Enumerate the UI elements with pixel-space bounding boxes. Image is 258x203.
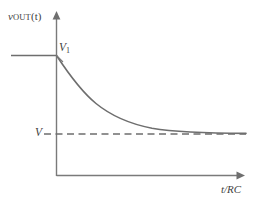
initial-value-subscript: 1 xyxy=(66,46,70,55)
initial-value-symbol: V xyxy=(59,41,66,53)
x-axis-label: t/RC xyxy=(221,184,241,195)
y-axis xyxy=(53,11,61,176)
plot-canvas xyxy=(0,0,258,203)
final-value-label: V xyxy=(35,127,42,139)
y-axis-label: vOUT(t) xyxy=(8,11,41,22)
figure-container: vOUT(t) t/RC V1 V xyxy=(0,0,258,203)
x-axis xyxy=(57,172,246,180)
y-axis-argument: (t) xyxy=(31,10,41,22)
initial-value-label: V1 xyxy=(59,42,70,55)
y-axis-subscript: OUT xyxy=(13,12,31,22)
curve-exponential-decay xyxy=(57,56,247,134)
